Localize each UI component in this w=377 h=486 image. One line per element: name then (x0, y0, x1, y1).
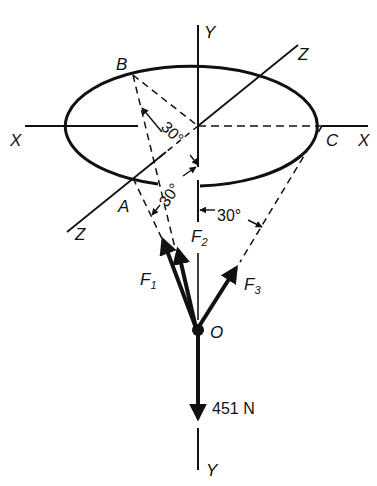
load-label: 451 N (212, 400, 255, 417)
point-c-label: C (326, 131, 339, 150)
force-f2-label: F2 (191, 227, 208, 248)
z-axis-label-top: Z (297, 45, 309, 64)
angle-label-b: 30° (158, 118, 187, 147)
x-axis-label-left: X (9, 131, 22, 150)
y-axis-label-bottom: Y (206, 461, 219, 480)
x-axis-label-right: X (357, 131, 370, 150)
point-a-label: A (117, 197, 129, 216)
force-f3-label: F3 (244, 275, 261, 296)
angle-arrow-c2 (248, 220, 262, 227)
z-axis-label-bottom: Z (74, 225, 86, 244)
angle-arrow-a2 (152, 205, 160, 215)
force-f1-label: F1 (140, 270, 157, 291)
angle-label-c: 30° (217, 207, 241, 224)
force-f3-arrow (198, 268, 236, 328)
point-o-label: O (210, 323, 223, 342)
force-diagram: X X Y Y Z Z B A C O F1 F2 F3 451 N 30° 3… (0, 0, 377, 486)
angle-arrow-a (183, 167, 196, 176)
z-axis-lower (67, 152, 166, 232)
origin-point (192, 324, 204, 336)
point-b-label: B (116, 55, 127, 74)
y-axis-label-top: Y (204, 23, 217, 42)
angle-arrow-b2 (190, 155, 198, 165)
cable-ob-dashed (133, 75, 198, 126)
cable-a-down (133, 178, 165, 245)
